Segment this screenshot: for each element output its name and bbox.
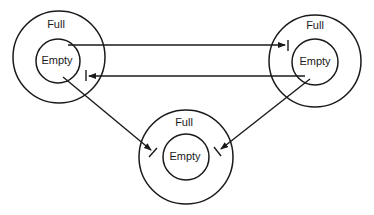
full-label: Full (175, 116, 193, 128)
edge-top-right-to-bottom (214, 79, 310, 156)
bar-end-icon (214, 147, 221, 156)
node-top-right: Full Empty (269, 15, 361, 107)
full-label: Full (306, 19, 324, 31)
empty-label: Empty (299, 55, 331, 67)
node-bottom: Full Empty (139, 110, 233, 204)
arrow-line (221, 79, 310, 149)
edge-top-left-to-bottom (63, 77, 157, 157)
node-top-left: Full Empty (13, 11, 105, 103)
full-label: Full (47, 18, 65, 30)
empty-label: Empty (41, 54, 73, 66)
arrow-line (63, 77, 151, 150)
state-diagram: Full Empty Full Empty Full Empty (0, 0, 374, 215)
edge-top-left-to-top-right (68, 40, 288, 51)
empty-label: Empty (169, 150, 201, 162)
